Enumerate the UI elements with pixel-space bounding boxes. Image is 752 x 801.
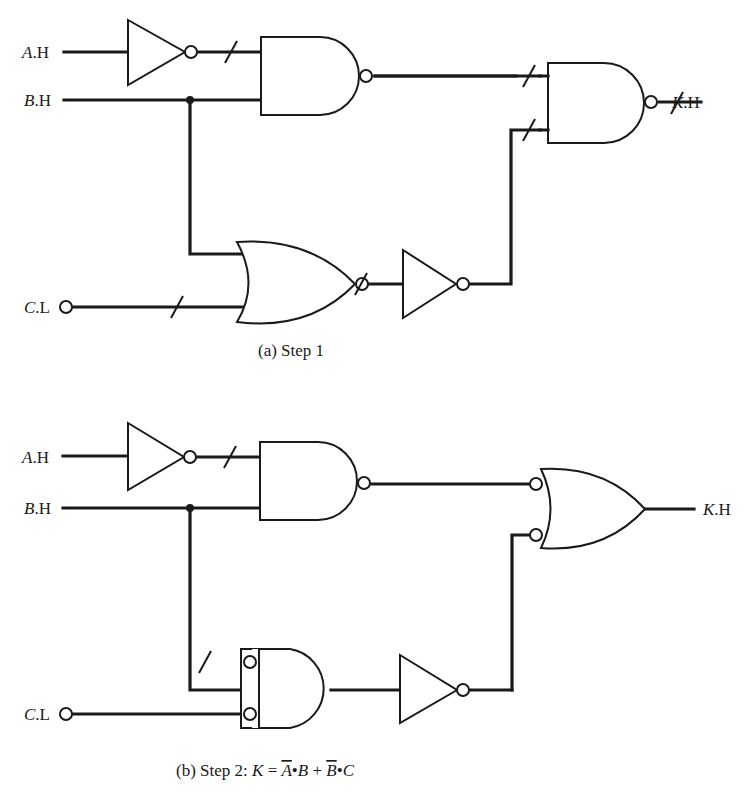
inversion-bubble — [457, 278, 469, 290]
nand-gate-1 — [261, 37, 359, 115]
inversion-bubble — [244, 708, 256, 720]
junction-dot — [186, 96, 194, 104]
inverter-gate — [128, 423, 184, 490]
input-bubble-c — [60, 708, 72, 720]
inversion-bubble — [185, 46, 197, 58]
input-label-a: A.H — [21, 448, 49, 467]
inverter-gate — [403, 250, 456, 318]
output-label-k: K.H — [702, 500, 731, 519]
inversion-bubble — [530, 478, 542, 490]
input-label-c: C.L — [24, 705, 50, 724]
caption-a: (a) Step 1 — [258, 341, 324, 360]
inversion-bubble — [457, 684, 469, 696]
panel-a-step1: A.H B.H C.L K.H — [21, 20, 701, 360]
inversion-bubble — [184, 451, 196, 463]
wire-inv2-out — [469, 130, 540, 284]
caption-b: (b) Step 2: K = A•B + B•C — [176, 761, 355, 780]
input-label-b: B.H — [24, 499, 51, 518]
panel-b-step2: A.H B.H C.L K.H — [21, 423, 731, 780]
wire-b-branch — [190, 100, 252, 254]
nor-gate — [237, 242, 355, 324]
input-bubble-c — [60, 301, 72, 313]
or-gate-inverted-inputs — [541, 469, 645, 549]
logic-circuit-figure: A.H B.H C.L K.H — [0, 0, 752, 801]
inversion-bubble — [244, 656, 256, 668]
inversion-bubble — [530, 529, 542, 541]
inversion-bubble — [358, 477, 370, 489]
nand-gate-2 — [548, 63, 644, 143]
junction-dot — [186, 504, 194, 512]
input-label-b: B.H — [24, 91, 51, 110]
input-label-c: C.L — [24, 298, 50, 317]
inversion-bubble — [645, 96, 657, 108]
nand-gate — [260, 442, 357, 520]
inverter-gate — [128, 20, 185, 85]
input-label-a: A.H — [21, 43, 49, 62]
inversion-bubble — [360, 70, 372, 82]
inverter-gate — [400, 655, 457, 723]
